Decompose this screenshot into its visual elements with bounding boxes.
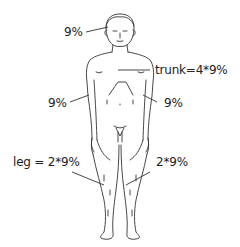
left-leg-outline <box>93 145 119 239</box>
human-body-figure <box>0 0 240 247</box>
head-label: 9% <box>64 26 83 38</box>
left-arm-label: 9% <box>48 97 67 109</box>
right-leg-label: 2*9% <box>156 156 188 168</box>
right-arm-label: 9% <box>164 97 183 109</box>
trunk-label: trunk=4*9% <box>155 64 228 76</box>
left-arm-leader-line <box>70 95 89 102</box>
left-leg-label: leg = 2*9% <box>13 156 80 168</box>
right-leg-outline <box>121 145 147 239</box>
right-leg-leader-line <box>126 172 150 185</box>
